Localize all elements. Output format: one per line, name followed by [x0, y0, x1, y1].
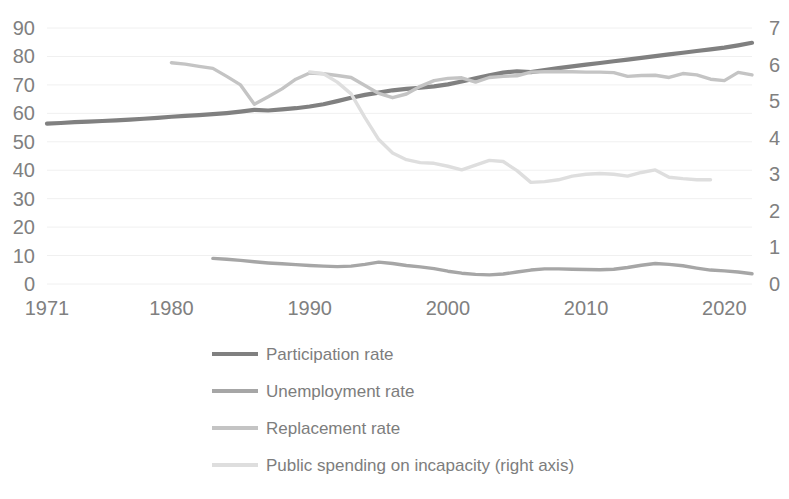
y-axis-tick-label: 10 — [13, 246, 35, 266]
y-axis-tick-label: 60 — [13, 103, 35, 123]
legend-label: Participation rate — [266, 346, 394, 363]
y-axis-tick-label: 40 — [13, 160, 35, 180]
legend-item[interactable]: Participation rate — [212, 343, 394, 365]
x-axis-tick-label: 2000 — [408, 298, 488, 318]
y2-axis-tick-label: 0 — [769, 274, 780, 294]
legend-label: Unemployment rate — [266, 383, 414, 400]
series-group — [47, 43, 752, 275]
x-axis-tick-label: 1980 — [131, 298, 211, 318]
series-line-0 — [47, 43, 752, 124]
legend-color-swatch — [212, 426, 258, 430]
y2-axis-tick-label: 5 — [769, 91, 780, 111]
y2-axis-tick-label: 6 — [769, 55, 780, 75]
y2-axis-tick-label: 4 — [769, 128, 780, 148]
legend-label: Replacement rate — [266, 420, 400, 437]
y2-axis-tick-label: 1 — [769, 237, 780, 257]
legend-color-swatch — [212, 389, 258, 393]
x-axis-tick-label: 2010 — [546, 298, 626, 318]
legend-item[interactable]: Replacement rate — [212, 417, 400, 439]
legend-color-swatch — [212, 352, 258, 356]
y-axis-tick-label: 80 — [13, 46, 35, 66]
y-axis-tick-label: 50 — [13, 132, 35, 152]
legend-item[interactable]: Public spending on incapacity (right axi… — [212, 454, 574, 476]
y2-axis-tick-label: 3 — [769, 164, 780, 184]
y2-axis-tick-label: 7 — [769, 18, 780, 38]
y-axis-tick-label: 90 — [13, 18, 35, 38]
x-axis-tick-label: 2020 — [684, 298, 764, 318]
legend-color-swatch — [212, 463, 258, 467]
y-axis-tick-label: 0 — [24, 274, 35, 294]
y-axis-tick-label: 30 — [13, 189, 35, 209]
legend-item[interactable]: Unemployment rate — [212, 380, 414, 402]
x-axis-tick-label: 1971 — [7, 298, 87, 318]
chart-figure: 0102030405060708090012345671971198019902… — [0, 0, 789, 499]
x-axis-tick-label: 1990 — [270, 298, 350, 318]
series-line-1 — [213, 258, 752, 275]
y-axis-tick-label: 70 — [13, 75, 35, 95]
legend-label: Public spending on incapacity (right axi… — [266, 457, 574, 474]
y-axis-tick-label: 20 — [13, 217, 35, 237]
y2-axis-tick-label: 2 — [769, 201, 780, 221]
